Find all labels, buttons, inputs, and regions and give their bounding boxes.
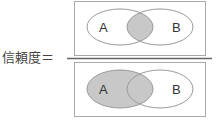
set-b-label: B — [172, 82, 181, 97]
denominator-venn: A B — [75, 63, 206, 117]
set-a-ellipse-shaded — [87, 70, 153, 108]
set-b-label: B — [172, 20, 181, 35]
numerator-venn: A B — [75, 2, 206, 56]
set-a-label: A — [99, 20, 108, 35]
set-a-label: A — [99, 82, 108, 97]
venn-fraction-diagram: A B A B — [0, 0, 221, 123]
